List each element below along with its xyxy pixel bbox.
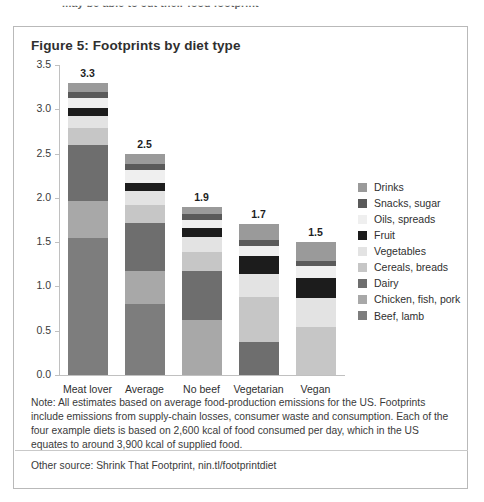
bar-total-label: 1.9 [182, 191, 222, 203]
bar-segment[interactable] [296, 327, 336, 375]
x-axis-category-label: No beef [170, 383, 234, 395]
bar-segment[interactable] [182, 271, 222, 320]
y-axis-tick-label: 0.5 [36, 324, 51, 336]
legend-color-swatch [358, 199, 367, 208]
legend-item[interactable]: Oils, spreads [358, 211, 460, 227]
bar-stack [125, 154, 165, 375]
legend-item-label: Chicken, fish, pork [374, 294, 460, 305]
legend-item[interactable]: Beef, lamb [358, 308, 460, 324]
figure-container: Figure 5: Footprints by diet type 0.00.5… [13, 26, 468, 489]
bar-segment[interactable] [68, 145, 108, 201]
legend-item-label: Beef, lamb [374, 311, 424, 322]
bar-segment[interactable] [68, 108, 108, 115]
bar-segment[interactable] [296, 242, 336, 261]
bar-total-label: 1.7 [239, 208, 279, 220]
bar-segment[interactable] [125, 205, 165, 223]
legend-item-label: Oils, spreads [374, 214, 435, 225]
figure-source: Other source: Shrink That Footprint, nin… [31, 459, 451, 473]
x-axis-line [59, 375, 345, 376]
legend-item-label: Cereals, breads [374, 262, 448, 273]
bar-segment[interactable] [68, 83, 108, 92]
bar-segment[interactable] [125, 183, 165, 191]
bar-segment[interactable] [182, 252, 222, 271]
bar-segment[interactable] [182, 214, 222, 220]
bar-column[interactable]: 3.3Meat lover [68, 65, 108, 375]
legend-item-label: Drinks [374, 182, 404, 193]
bar-segment[interactable] [125, 170, 165, 182]
clipped-page-text: may be able to cut their food footprint [62, 0, 302, 9]
bar-segment[interactable] [68, 116, 108, 128]
bar-segment[interactable] [182, 207, 222, 214]
bar-segment[interactable] [239, 256, 279, 274]
bar-segment[interactable] [182, 228, 222, 237]
bar-total-label: 1.5 [296, 226, 336, 238]
bar-segment[interactable] [125, 223, 165, 271]
legend-item-label: Vegetables [374, 246, 426, 257]
bar-segment[interactable] [125, 154, 165, 165]
bar-segment[interactable] [296, 266, 336, 278]
bar-segment[interactable] [125, 191, 165, 205]
bar-segment[interactable] [125, 271, 165, 305]
bar-segment[interactable] [239, 342, 279, 375]
bar-stack [182, 207, 222, 375]
chart-legend: DrinksSnacks, sugarOils, spreadsFruitVeg… [358, 179, 460, 324]
bar-stack [239, 224, 279, 375]
bar-segment[interactable] [182, 320, 222, 375]
bar-column[interactable]: 1.5Vegan [296, 65, 336, 375]
bar-segment[interactable] [239, 224, 279, 240]
bar-segment[interactable] [239, 274, 279, 297]
bar-stack [296, 242, 336, 375]
legend-item-label: Snacks, sugar [374, 198, 441, 209]
bar-segment[interactable] [125, 304, 165, 375]
figure-note: Note: All estimates based on average foo… [31, 396, 451, 452]
legend-item-label: Fruit [374, 230, 395, 241]
y-axis-tick-mark [55, 375, 60, 376]
bar-segment[interactable] [68, 92, 108, 98]
y-axis-tick-label: 2.5 [36, 147, 51, 159]
legend-item[interactable]: Chicken, fish, pork [358, 292, 460, 308]
bar-segment[interactable] [68, 201, 108, 238]
legend-color-swatch [358, 183, 367, 192]
x-axis-category-label: Meat lover [56, 383, 120, 395]
legend-color-swatch [358, 263, 367, 272]
note-divider [15, 450, 468, 451]
bar-column[interactable]: 2.5Average [125, 65, 165, 375]
y-axis-tick-label: 1.0 [36, 279, 51, 291]
bar-segment[interactable] [239, 240, 279, 245]
bar-total-label: 3.3 [68, 67, 108, 79]
y-axis-tick-label: 0.0 [36, 368, 51, 380]
x-axis-category-label: Vegan [284, 383, 348, 395]
legend-item[interactable]: Snacks, sugar [358, 195, 460, 211]
bar-segment[interactable] [296, 261, 336, 266]
legend-item[interactable]: Fruit [358, 227, 460, 243]
bar-segment[interactable] [182, 237, 222, 252]
bar-segment[interactable] [182, 220, 222, 228]
legend-item[interactable]: Dairy [358, 276, 460, 292]
bar-segment[interactable] [68, 238, 108, 375]
legend-color-swatch [358, 231, 367, 240]
bar-total-label: 2.5 [125, 138, 165, 150]
bars-layer: 3.3Meat lover2.5Average1.9No beef1.7Vege… [59, 65, 344, 375]
bar-segment[interactable] [296, 298, 336, 327]
y-axis-tick-label: 3.5 [36, 58, 51, 70]
x-axis-category-label: Average [113, 383, 177, 395]
legend-color-swatch [358, 311, 367, 320]
legend-item-label: Dairy [374, 278, 399, 289]
bar-segment[interactable] [68, 128, 108, 145]
bar-column[interactable]: 1.7Vegetarian [239, 65, 279, 375]
legend-item[interactable]: Vegetables [358, 243, 460, 259]
bar-segment[interactable] [296, 278, 336, 298]
y-axis-tick-label: 2.0 [36, 191, 51, 203]
legend-item[interactable]: Cereals, breads [358, 259, 460, 275]
legend-color-swatch [358, 279, 367, 288]
x-axis-category-label: Vegetarian [227, 383, 291, 395]
legend-item[interactable]: Drinks [358, 179, 460, 195]
bar-segment[interactable] [68, 98, 108, 109]
bar-segment[interactable] [239, 246, 279, 257]
legend-color-swatch [358, 215, 367, 224]
bar-segment[interactable] [125, 164, 165, 170]
bar-segment[interactable] [239, 297, 279, 342]
bar-column[interactable]: 1.9No beef [182, 65, 222, 375]
bar-stack [68, 83, 108, 375]
legend-color-swatch [358, 247, 367, 256]
